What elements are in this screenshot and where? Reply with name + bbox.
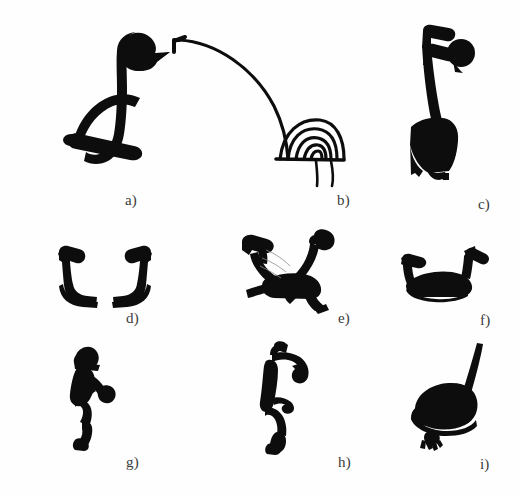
figure-f [400, 243, 490, 305]
figure-b-drawing [168, 28, 358, 193]
figure-caption-d: d) [126, 310, 139, 327]
figure-h [258, 340, 328, 455]
figure-plate: a) b) [0, 0, 521, 495]
figure-caption-h: h) [338, 454, 351, 471]
figure-c [405, 15, 495, 195]
figure-i-drawing [405, 342, 500, 452]
figure-a [60, 22, 180, 182]
figure-d-drawing [55, 240, 155, 310]
figure-caption-c: c) [478, 196, 490, 213]
figure-c-drawing [405, 15, 495, 195]
figure-caption-f: f) [480, 312, 490, 329]
figure-e [240, 228, 350, 313]
figure-h-drawing [258, 340, 328, 455]
figure-b [168, 28, 358, 193]
figure-g [62, 342, 137, 452]
figure-caption-i: i) [480, 456, 490, 473]
figure-caption-e: e) [338, 310, 350, 327]
figure-f-drawing [400, 243, 490, 305]
figure-g-drawing [62, 342, 137, 452]
figure-i [405, 342, 500, 452]
figure-e-drawing [240, 228, 350, 313]
figure-d [55, 240, 155, 310]
figure-caption-b: b) [337, 192, 350, 209]
figure-caption-g: g) [126, 454, 139, 471]
figure-caption-a: a) [125, 192, 137, 209]
figure-a-drawing [60, 22, 180, 182]
